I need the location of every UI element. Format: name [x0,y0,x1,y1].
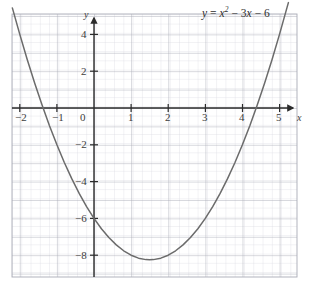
equation-equals-sign: = [210,7,217,19]
y-tick-label-neg4: −4 [75,176,87,187]
coordinate-plane [0,0,309,286]
equation-lhs: y [202,7,207,19]
equation-term2-variable: x [247,7,252,19]
grid-lines [12,14,297,277]
equation-label: y=x2− 3x− 6 [202,6,270,19]
y-tick-label-neg6: −6 [75,213,87,224]
y-tick-label-neg2: −2 [75,139,87,150]
x-tick-label-0: 0 [80,112,86,123]
x-tick-label-3: 3 [202,112,208,123]
x-axis-name: x [297,113,301,123]
x-tick-label-5: 5 [276,112,282,123]
y-tick-label-4: 4 [81,29,87,40]
x-tick-label-1: 1 [128,112,134,123]
x-tick-label-2: 2 [165,112,171,123]
equation-term2: − 3 [231,7,246,19]
equation-term3: − 6 [255,7,270,19]
y-tick-label-2: 2 [81,66,87,77]
x-tick-label-neg1: −1 [52,112,64,123]
equation-term1-exponent: 2 [225,5,229,14]
x-tick-label-neg2: −2 [15,112,27,123]
y-tick-label-neg8: −8 [75,250,87,261]
parabola-graph-figure: −2 −1 0 1 2 3 4 5 4 2 −2 −4 −6 −8 x y y=… [0,0,309,286]
y-axis-name: y [84,10,88,20]
x-tick-label-4: 4 [239,112,245,123]
